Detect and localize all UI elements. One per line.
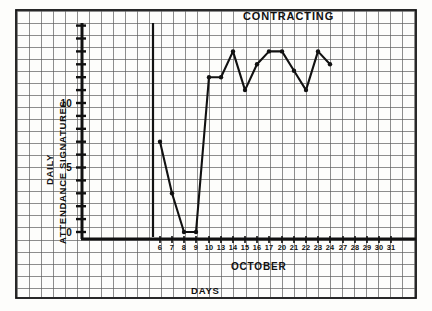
x-tick-label-22: 22 <box>302 243 311 252</box>
y-tick-label-5: 5 <box>0 162 72 173</box>
chart-page: CONTRACTING DAILY ATTENDANCE SIGNATURES … <box>0 0 432 311</box>
x-tick-label-24: 24 <box>326 243 335 252</box>
x-tick-label-29: 29 <box>363 243 372 252</box>
data-point-20 <box>280 49 284 53</box>
data-point-15 <box>243 88 247 92</box>
x-axis-title: DAYS <box>191 285 220 296</box>
data-point-8 <box>182 230 186 234</box>
data-point-17 <box>267 49 271 53</box>
x-tick-label-14: 14 <box>229 243 238 252</box>
data-point-13 <box>219 75 223 79</box>
x-tick-label-9: 9 <box>194 243 198 252</box>
data-point-21 <box>292 69 296 73</box>
x-tick-label-30: 30 <box>375 243 384 252</box>
x-tick-label-27: 27 <box>339 243 348 252</box>
data-point-9 <box>194 230 198 234</box>
data-point-10 <box>207 75 211 79</box>
data-point-14 <box>231 49 235 53</box>
x-tick-label-6: 6 <box>158 243 162 252</box>
data-point-24 <box>328 62 332 66</box>
x-tick-label-28: 28 <box>351 243 360 252</box>
x-tick-label-10: 10 <box>205 243 214 252</box>
y-tick-label-0: 0 <box>0 227 72 238</box>
data-point-23 <box>316 49 320 53</box>
x-axis-month-label: OCTOBER <box>231 261 286 272</box>
x-tick-label-13: 13 <box>217 243 226 252</box>
x-tick-label-8: 8 <box>182 243 186 252</box>
x-tick-label-17: 17 <box>265 243 274 252</box>
x-tick-label-23: 23 <box>314 243 323 252</box>
x-tick-label-21: 21 <box>290 243 299 252</box>
data-point-22 <box>304 88 308 92</box>
data-point-16 <box>255 62 259 66</box>
x-tick-label-7: 7 <box>170 243 174 252</box>
data-point-6 <box>158 140 162 144</box>
data-point-7 <box>170 191 174 195</box>
x-tick-label-15: 15 <box>241 243 250 252</box>
y-tick-label-10: 10 <box>0 98 72 109</box>
x-tick-label-16: 16 <box>253 243 262 252</box>
x-tick-label-31: 31 <box>387 243 396 252</box>
x-tick-label-20: 20 <box>278 243 287 252</box>
chart-title: CONTRACTING <box>243 10 334 22</box>
